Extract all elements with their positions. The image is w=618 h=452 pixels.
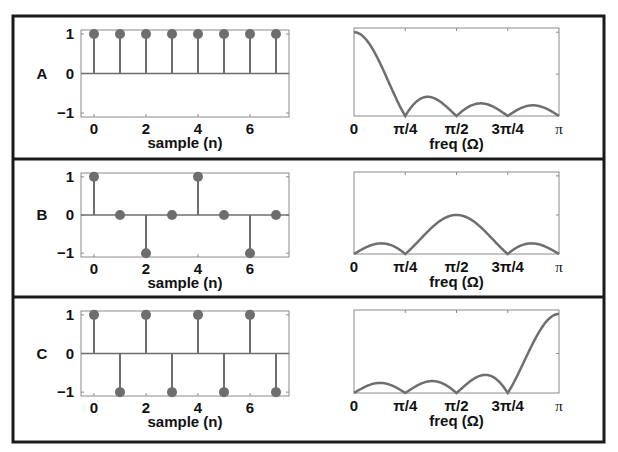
y-tick-label: 0 (66, 65, 74, 82)
x-tick-label: π (555, 121, 563, 137)
x-tick-label: 3π/4 (492, 120, 525, 137)
x-tick-label: 3π/4 (492, 397, 525, 414)
stem-marker (89, 29, 99, 39)
stem-marker (141, 29, 151, 39)
y-tick-label: −1 (57, 244, 74, 261)
stem-marker (193, 172, 203, 182)
x-tick-label: π (555, 259, 563, 275)
x-tick-label: π/4 (393, 397, 418, 414)
y-tick-label: 1 (66, 306, 74, 323)
freq-axes-box (354, 172, 559, 254)
stem-marker (115, 29, 125, 39)
magnitude-curve (354, 314, 559, 393)
y-tick-label: 1 (66, 25, 74, 42)
stem-marker (115, 387, 125, 397)
x-axis-label: freq (Ω) (429, 273, 484, 290)
stem-marker (167, 387, 177, 397)
x-axis-label: sample (n) (147, 274, 222, 291)
x-tick-label: 0 (90, 120, 98, 137)
stem-marker (245, 29, 255, 39)
stem-marker (167, 210, 177, 220)
stem-marker (141, 248, 151, 258)
stem-marker (271, 210, 281, 220)
stem-marker (115, 210, 125, 220)
y-tick-label: −1 (57, 383, 74, 400)
x-tick-label: 0 (350, 258, 358, 275)
x-tick-label: 0 (90, 399, 98, 416)
x-tick-label: π (555, 398, 563, 414)
y-tick-label: 1 (66, 168, 74, 185)
stem-marker (193, 310, 203, 320)
x-axis-label: freq (Ω) (429, 135, 484, 152)
stem-marker (245, 310, 255, 320)
row-label: C (37, 345, 48, 362)
magnitude-curve (354, 215, 559, 254)
stem-marker (89, 310, 99, 320)
stem-marker (245, 248, 255, 258)
stem-marker (193, 29, 203, 39)
stem-marker (167, 29, 177, 39)
figure: 10−1A0246sample (n)0π/4π/23π/4πfreq (Ω)1… (0, 0, 618, 452)
magnitude-curve (354, 32, 559, 116)
stem-marker (141, 310, 151, 320)
x-axis-label: sample (n) (147, 413, 222, 430)
stem-marker (271, 29, 281, 39)
x-tick-label: π/4 (393, 258, 418, 275)
y-tick-label: −1 (57, 104, 74, 121)
x-tick-label: 6 (246, 260, 254, 277)
stem-marker (271, 387, 281, 397)
stem-marker (219, 29, 229, 39)
x-tick-label: 3π/4 (492, 258, 525, 275)
x-tick-label: 0 (90, 260, 98, 277)
x-tick-label: 0 (350, 120, 358, 137)
x-axis-label: sample (n) (147, 134, 222, 151)
stem-marker (89, 172, 99, 182)
x-tick-label: π/4 (393, 120, 418, 137)
x-axis-label: freq (Ω) (429, 412, 484, 429)
row-label: B (37, 206, 48, 223)
y-tick-label: 0 (66, 206, 74, 223)
x-tick-label: 6 (246, 120, 254, 137)
stem-marker (219, 387, 229, 397)
x-tick-label: 0 (350, 397, 358, 414)
stem-marker (219, 210, 229, 220)
y-tick-label: 0 (66, 345, 74, 362)
x-tick-label: 6 (246, 399, 254, 416)
row-label: A (37, 65, 48, 82)
